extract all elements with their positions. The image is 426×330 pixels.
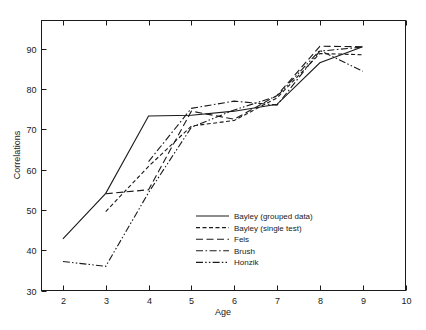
x-tick-label: 4 [147,296,152,306]
series-line-bayley-single-test [106,54,363,212]
y-tick-label: 50 [26,206,36,216]
x-tick-label: 6 [232,296,237,306]
legend-label-brush: Brush [234,247,255,256]
y-axis-ticks [42,50,47,292]
series-line-bayley-grouped-data [63,47,363,239]
x-tick-label: 10 [401,296,411,306]
legend-label-bayley-single-test: Bayley (single test) [234,224,302,233]
y-axis-tick-labels: 30405060708090 [26,45,36,297]
chart-legend: Bayley (grouped data)Bayley (single test… [196,212,313,267]
x-axis-label: Age [215,307,231,317]
y-tick-label: 70 [26,125,36,135]
data-series-group [63,46,363,266]
y-tick-label: 80 [26,85,36,95]
x-tick-label: 3 [104,296,109,306]
x-tick-label: 5 [189,296,194,306]
correlations-by-age-line-chart: 2345678910 30405060708090 Age Correlatio… [0,0,426,330]
x-axis-ticks [64,286,407,291]
x-tick-label: 2 [61,296,66,306]
x-tick-label: 8 [318,296,323,306]
series-line-honzik [63,50,363,266]
legend-label-fels: Fels [234,235,249,244]
legend-label-bayley-grouped-data: Bayley (grouped data) [234,212,313,221]
x-axis-ticks-top [64,21,407,26]
x-tick-label: 9 [361,296,366,306]
plot-frame [42,21,406,291]
chart-figure: 2345678910 30405060708090 Age Correlatio… [0,0,426,330]
y-tick-label: 40 [26,246,36,256]
y-tick-label: 30 [26,287,36,297]
y-tick-label: 60 [26,166,36,176]
x-axis-tick-labels: 2345678910 [61,296,412,306]
x-tick-label: 7 [275,296,280,306]
legend-label-honzik: Honzik [234,258,259,267]
y-axis-label: Correlations [12,130,22,179]
y-tick-label: 90 [26,45,36,55]
